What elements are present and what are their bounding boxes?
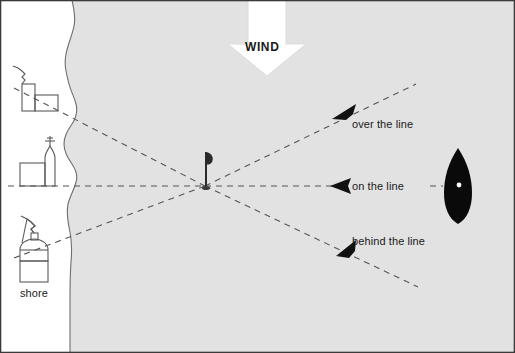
on-the-line-label: on the line [352, 180, 404, 192]
behind-the-line-label: behind the line [352, 235, 425, 247]
shore-label: shore [20, 287, 48, 299]
diagram-canvas: WIND over the line on the line behind th… [0, 0, 515, 353]
wind-label: WIND [245, 40, 279, 54]
boat-mast-dot [457, 183, 462, 188]
over-the-line-label: over the line [352, 118, 413, 130]
